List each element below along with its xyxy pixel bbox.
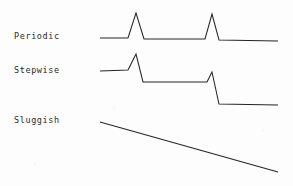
signal-response-diagram: Periodic Stepwise Sluggish xyxy=(0,0,293,186)
trace-canvas xyxy=(0,0,293,186)
trace-periodic xyxy=(100,13,278,41)
trace-stepwise xyxy=(100,54,278,105)
trace-sluggish xyxy=(100,122,278,172)
